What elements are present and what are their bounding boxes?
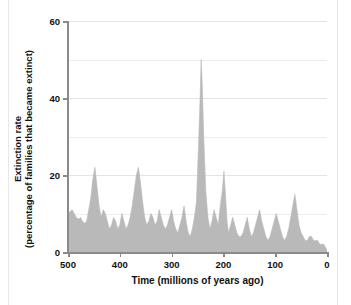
x-axis-line — [68, 252, 328, 254]
extinction-rate-area-path — [68, 60, 327, 253]
y-axis-title-line1: Extinction rate — [12, 49, 23, 249]
y-tick-20 — [63, 175, 68, 177]
area-path-svg — [68, 21, 327, 252]
y-axis-title: Extinction rate (percentage of families … — [12, 49, 34, 249]
area-series — [68, 21, 327, 252]
y-axis-title-line2: (percentage of families that became exti… — [23, 49, 34, 249]
plot-area — [68, 21, 327, 252]
x-tick-200 — [223, 252, 225, 257]
x-tick-label-400: 400 — [112, 259, 128, 270]
x-tick-label-300: 300 — [164, 259, 180, 270]
x-tick-500 — [68, 252, 70, 257]
page-right-border — [337, 0, 338, 305]
y-axis-line — [67, 21, 69, 253]
y-tick-label-40: 40 — [49, 93, 60, 104]
chart-figure: 5004003002001000 0204060 Time (millions … — [0, 0, 351, 305]
x-tick-0 — [327, 252, 329, 257]
y-tick-40 — [63, 98, 68, 100]
x-tick-label-100: 100 — [267, 259, 283, 270]
x-tick-400 — [120, 252, 122, 257]
x-tick-100 — [275, 252, 277, 257]
x-tick-300 — [172, 252, 174, 257]
x-tick-label-200: 200 — [215, 259, 231, 270]
x-axis-title: Time (millions of years ago) — [68, 275, 327, 286]
x-tick-label-500: 500 — [60, 259, 76, 270]
y-tick-label-20: 20 — [49, 170, 60, 181]
x-tick-label-0: 0 — [324, 259, 329, 270]
y-tick-0 — [63, 252, 68, 254]
y-tick-60 — [63, 21, 68, 23]
y-tick-label-60: 60 — [49, 16, 60, 27]
y-tick-label-0: 0 — [55, 247, 60, 258]
